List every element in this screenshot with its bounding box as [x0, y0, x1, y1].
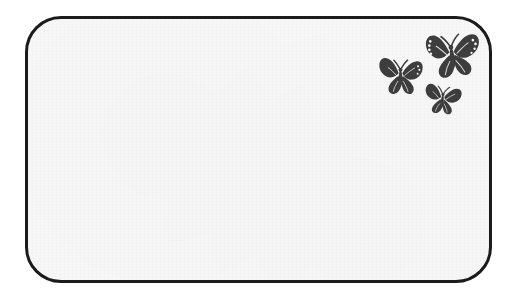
butterfly-icon — [420, 80, 465, 118]
butterfly-small — [420, 80, 465, 118]
canvas — [0, 0, 511, 298]
butterfly-icon — [421, 29, 483, 81]
butterfly-large — [421, 29, 483, 81]
